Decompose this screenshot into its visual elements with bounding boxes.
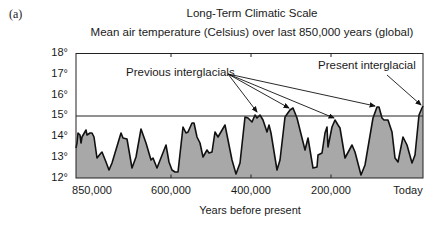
y-tick-15: 15° (38, 108, 68, 120)
x-axis-label: Years before present (0, 204, 436, 216)
x-tick-today: Today (393, 184, 422, 196)
y-tick-13: 13° (38, 150, 68, 162)
y-tick-14: 14° (38, 129, 68, 141)
annotation-previous-interglacials: Previous interglacials (126, 66, 235, 78)
y-tick-18: 18° (38, 46, 68, 58)
y-tick-17: 17° (38, 67, 68, 79)
annotation-present-interglacial: Present interglacial (318, 59, 416, 71)
x-tick-400000: 400,000 (231, 184, 271, 196)
y-tick-16: 16° (38, 88, 68, 100)
annotation-arrows (228, 74, 421, 118)
y-tick-12: 12° (38, 171, 68, 183)
x-tick-850000: 850,000 (72, 184, 112, 196)
x-tick-600000: 600,000 (151, 184, 191, 196)
x-tick-200000: 200,000 (311, 184, 351, 196)
